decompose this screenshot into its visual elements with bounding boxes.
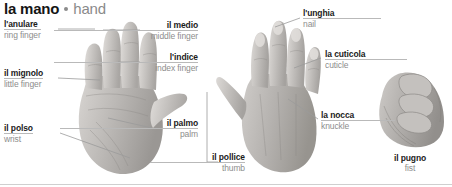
label-thumb: il pollice thumb bbox=[150, 153, 245, 172]
label-thumb-italian: il pollice bbox=[150, 153, 245, 162]
label-ring-finger: l'anulare ring finger bbox=[4, 20, 41, 39]
label-palm-italian: il palmo bbox=[60, 119, 198, 128]
label-fist-italian: il pugno bbox=[370, 154, 450, 163]
label-wrist-italian: il polso bbox=[4, 124, 33, 133]
label-cuticle: la cuticola cuticle bbox=[325, 50, 407, 69]
label-index-finger: l'indice index finger bbox=[54, 53, 198, 72]
label-ring-finger-english: ring finger bbox=[4, 29, 41, 39]
label-little-finger-english: little finger bbox=[4, 78, 43, 88]
page-title-italian: la mano bbox=[4, 0, 59, 17]
page-title: la manohand bbox=[4, 0, 106, 18]
label-index-finger-italian: l'indice bbox=[54, 53, 198, 62]
label-palm: il palmo palm bbox=[60, 119, 198, 138]
hand-vocabulary-diagram: la manohand bbox=[0, 0, 452, 187]
label-middle-finger-english: middle finger bbox=[54, 30, 198, 40]
label-fist-english: fist bbox=[370, 163, 450, 173]
label-middle-finger-italian: il medio bbox=[54, 21, 198, 30]
label-index-finger-english: index finger bbox=[54, 62, 198, 72]
figure-fist-view bbox=[372, 62, 448, 152]
label-thumb-english: thumb bbox=[150, 162, 245, 172]
label-wrist: il polso wrist bbox=[4, 124, 33, 143]
label-palm-english: palm bbox=[60, 128, 198, 138]
label-little-finger: il mignolo little finger bbox=[4, 69, 43, 88]
label-knuckle-english: knuckle bbox=[321, 120, 395, 130]
label-cuticle-english: cuticle bbox=[325, 59, 407, 69]
page-title-english: hand bbox=[73, 0, 106, 17]
label-cuticle-italian: la cuticola bbox=[325, 50, 407, 59]
label-nail-english: nail bbox=[303, 18, 381, 28]
label-nail-italian: l'unghia bbox=[303, 9, 381, 18]
label-knuckle: la nocca knuckle bbox=[321, 111, 395, 130]
label-nail: l'unghia nail bbox=[303, 9, 381, 28]
bullet-separator-icon bbox=[64, 7, 68, 11]
label-knuckle-italian: la nocca bbox=[321, 111, 395, 120]
label-ring-finger-italian: l'anulare bbox=[4, 20, 41, 29]
label-little-finger-italian: il mignolo bbox=[4, 69, 43, 78]
label-middle-finger: il medio middle finger bbox=[54, 21, 198, 40]
bottom-rule bbox=[0, 184, 452, 185]
label-wrist-english: wrist bbox=[4, 133, 33, 143]
label-fist: il pugno fist bbox=[370, 154, 450, 173]
